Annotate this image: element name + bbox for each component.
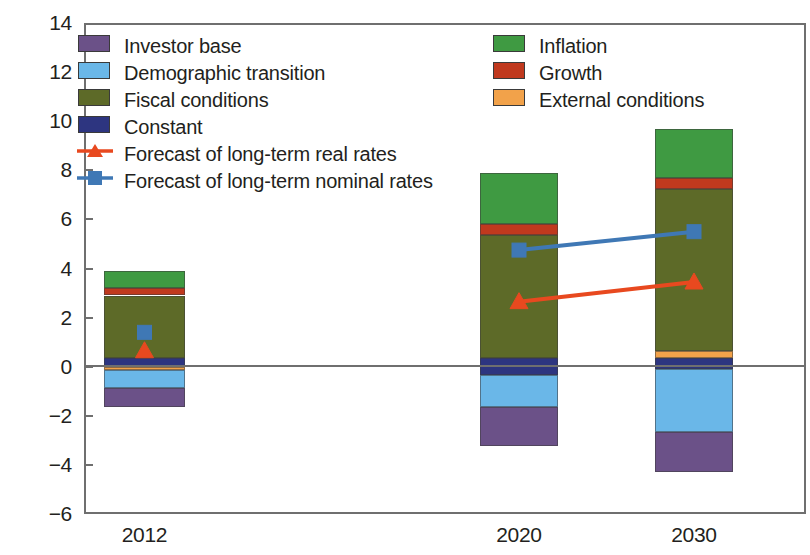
y-axis-tick xyxy=(84,415,93,417)
bar-segment xyxy=(104,370,185,387)
legend-swatch xyxy=(78,35,110,52)
legend-swatch xyxy=(78,62,110,79)
y-axis-tick-label: 0 xyxy=(10,356,72,377)
bar-segment xyxy=(480,235,558,358)
legend-label: Fiscal conditions xyxy=(124,90,268,110)
bar-segment xyxy=(480,375,558,407)
bar-segment xyxy=(655,178,733,189)
bar-segment xyxy=(104,367,185,371)
y-axis-tick-label: 2 xyxy=(10,307,72,328)
legend-label: External conditions xyxy=(539,90,704,110)
legend-swatch xyxy=(493,35,525,52)
y-axis-tick xyxy=(84,218,93,220)
y-axis-tick-label: 14 xyxy=(10,12,72,33)
bar-segment xyxy=(655,129,733,178)
bar-segment xyxy=(104,288,185,295)
x-axis-tick-label: 2020 xyxy=(459,524,579,545)
y-axis-tick xyxy=(84,268,93,270)
bar-segment xyxy=(480,173,558,225)
bar-segment xyxy=(655,432,733,473)
legend-label: Forecast of long-term nominal rates xyxy=(124,171,433,191)
y-axis-tick-label: 10 xyxy=(10,110,72,131)
bar-segment xyxy=(480,224,558,235)
legend-label: Investor base xyxy=(124,36,241,56)
bar-segment xyxy=(104,388,185,408)
bar-segment xyxy=(655,369,733,432)
legend-swatch xyxy=(493,89,525,106)
y-axis-tick-label: −2 xyxy=(10,405,72,426)
y-axis-tick-label: −4 xyxy=(10,454,72,475)
legend-label: Forecast of long-term real rates xyxy=(124,144,397,164)
x-axis-tick-label: 2030 xyxy=(634,524,754,545)
bar-segment xyxy=(655,189,733,351)
bar-segment xyxy=(104,271,185,288)
x-axis-tick-label: 2012 xyxy=(85,524,205,545)
y-axis-tick-label: 6 xyxy=(10,208,72,229)
bar-segment xyxy=(104,296,185,359)
y-axis-tick-label: 8 xyxy=(10,159,72,180)
y-axis-tick-label: 4 xyxy=(10,258,72,279)
bar-segment xyxy=(655,351,733,358)
legend-label: Growth xyxy=(539,63,602,83)
y-axis-tick xyxy=(84,317,93,319)
zero-baseline xyxy=(84,365,806,367)
bar-segment xyxy=(655,358,733,369)
legend-line-marker xyxy=(76,168,114,188)
legend-swatch xyxy=(78,89,110,106)
legend-label: Inflation xyxy=(539,36,607,56)
y-axis-tick-label: 12 xyxy=(10,61,72,82)
legend-swatch xyxy=(493,62,525,79)
bar-segment xyxy=(480,407,558,446)
chart-container: 14121086420−2−4−6 201220202030 Investor … xyxy=(0,0,810,555)
y-axis-tick-label: −6 xyxy=(10,503,72,524)
y-axis-tick xyxy=(84,464,93,466)
legend-line-marker xyxy=(76,141,114,161)
legend-label: Demographic transition xyxy=(124,63,325,83)
legend-swatch xyxy=(78,116,110,133)
legend-label: Constant xyxy=(124,117,202,137)
